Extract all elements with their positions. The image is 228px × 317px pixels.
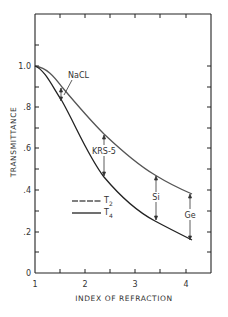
krs5-label: KRS-5	[92, 147, 116, 156]
series-t2-line	[35, 66, 192, 194]
legend: T2 T4	[72, 196, 113, 219]
plot-frame	[35, 14, 211, 273]
legend-t4-label: T4	[103, 208, 113, 219]
x-ticks	[60, 14, 186, 273]
y-ticks	[35, 45, 211, 252]
x-tick-label-2: 2	[82, 280, 87, 289]
si-label: Si	[152, 193, 159, 202]
ge-label: Ge	[184, 211, 195, 220]
y-tick-label-0: 0	[26, 269, 31, 278]
y-axis-title: TRANSMITTANCE	[9, 107, 18, 179]
y-tick-label-0.8: .8	[23, 103, 31, 112]
y-tick-label-0.2: .2	[23, 228, 31, 237]
nacl-label: NaCL	[68, 71, 89, 80]
x-tick-label-3: 3	[132, 280, 137, 289]
y-tick-label-0.4: .4	[23, 186, 31, 195]
x-tick-label-1: 1	[32, 280, 37, 289]
x-axis-title: INDEX OF REFRACTION	[75, 294, 173, 303]
y-tick-label-1.0: 1.0	[18, 62, 31, 71]
x-tick-label-4: 4	[183, 280, 188, 289]
legend-t2-label: T2	[103, 196, 113, 207]
y-tick-label-0.6: .6	[23, 144, 31, 153]
chart: 1 2 3 4 0 .2 .4 .6 .8 1.0 INDEX OF REFRA…	[0, 0, 228, 317]
